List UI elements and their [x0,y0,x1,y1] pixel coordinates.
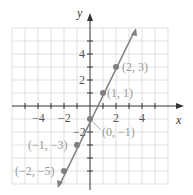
y-axis-arrow-icon [87,13,93,21]
point-1-1 [100,90,106,96]
point-label: (2, 3) [122,60,148,74]
point-label: (1, 1) [107,86,133,100]
graph-line [57,28,137,188]
leader-line [92,121,101,130]
y-tick-label: 2 [79,73,85,87]
y-axis [87,13,93,190]
line-arrow-up-icon [131,28,137,36]
x-tick-label: 2 [113,111,119,125]
x-tick-label: −2 [58,111,71,125]
point-label: (−1, −3) [28,138,68,152]
x-tick-label: −4 [32,111,45,125]
x-tick-label: 4 [139,111,145,125]
x-axis-arrow-icon [176,103,184,109]
point-neg1-neg3 [74,142,80,148]
point-neg2-neg5 [61,168,67,174]
x-axis-label: x [175,113,182,127]
coordinate-plane: y x −4 −2 2 4 4 2 −2 (−2, −5) (−1, −3) (… [0,0,193,195]
point-label: (0, −1) [102,125,135,139]
y-axis-label: y [76,6,83,20]
point-2-3 [113,64,119,70]
point-label: (−2, −5) [15,164,55,178]
y-tick-label: 4 [79,47,85,61]
y-tick-label: −2 [73,125,86,139]
